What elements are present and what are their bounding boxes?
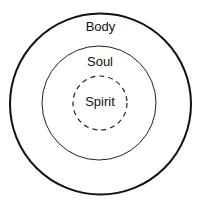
soul-label: Soul — [87, 54, 113, 69]
body-label: Body — [86, 19, 116, 34]
concentric-diagram: Body Soul Spirit — [0, 0, 201, 209]
spirit-label: Spirit — [85, 94, 115, 109]
